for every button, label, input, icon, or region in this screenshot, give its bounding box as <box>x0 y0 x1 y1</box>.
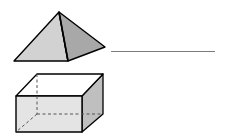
answer-line-pyramid[interactable] <box>111 51 215 52</box>
figure-row-prism <box>0 66 225 140</box>
square-pyramid-figure <box>0 0 120 70</box>
figure-row-pyramid <box>0 0 225 70</box>
worksheet-canvas <box>0 0 225 140</box>
rectangular-prism-figure <box>0 66 120 140</box>
